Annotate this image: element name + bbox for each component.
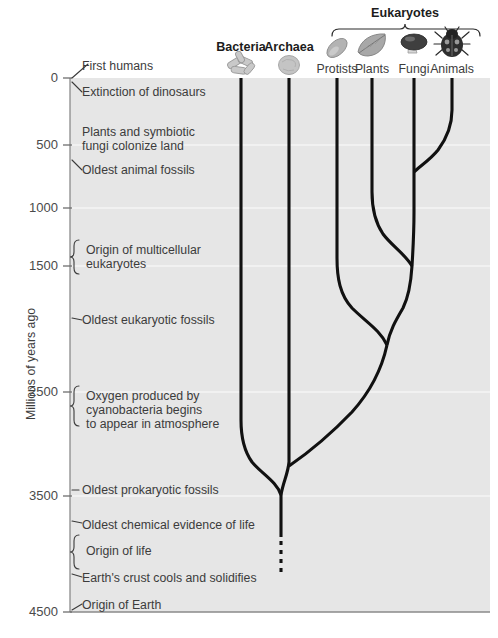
- event-earths-crust-cools: Earth's crust cools and solidifies: [82, 571, 257, 586]
- plant-leaf-icon: [358, 34, 385, 56]
- event-first-humans: First humans: [82, 59, 153, 74]
- axis-tick-3500: 3500: [18, 488, 58, 503]
- y-axis-title: Millions of years ago: [24, 308, 39, 420]
- event-oldest-chemical-evidence: Oldest chemical evidence of life: [82, 518, 255, 533]
- protist-bean-icon: [323, 35, 350, 61]
- taxon-label-animals: Animals: [423, 62, 481, 77]
- event-plants-fungi-land-line1: Plants and symbiotic: [82, 125, 195, 140]
- event-oldest-animal-fossils: Oldest animal fossils: [82, 163, 195, 178]
- tree-of-life-diagram: [0, 0, 498, 638]
- animal-beetle-icon: [434, 27, 470, 57]
- event-extinction-dinosaurs: Extinction of dinosaurs: [82, 85, 206, 100]
- eukaryotes-group-label: Eukaryotes: [355, 6, 455, 21]
- event-oxygen-cyanobacteria-line2: cyanobacteria begins: [86, 403, 202, 418]
- event-oxygen-cyanobacteria-line3: to appear in atmosphere: [86, 417, 219, 432]
- axis-tick-500: 500: [18, 137, 58, 152]
- event-oldest-prokaryotic-fossils: Oldest prokaryotic fossils: [82, 483, 219, 498]
- event-oldest-eukaryotic-fossils: Oldest eukaryotic fossils: [82, 313, 215, 328]
- archaea-blob-icon: [279, 56, 300, 75]
- event-oxygen-cyanobacteria-line1: Oxygen produced by: [86, 389, 199, 404]
- event-origin-of-earth: Origin of Earth: [82, 598, 161, 613]
- axis-tick-1500: 1500: [18, 258, 58, 273]
- event-origin-multicellular-line1: Origin of multicellular: [86, 243, 201, 258]
- fungi-mushroom-icon: [401, 34, 427, 53]
- axis-tick-4500: 4500: [18, 604, 58, 619]
- axis-tick-2500: 2500: [18, 384, 58, 399]
- phylogenetic-tree-figure: Millions of years ago 0 500 1000 1500 25…: [0, 0, 498, 638]
- axis-tick-1000: 1000: [18, 200, 58, 215]
- axis-tick-0: 0: [18, 70, 58, 85]
- event-plants-fungi-land-line2: fungi colonize land: [82, 139, 184, 154]
- event-origin-of-life: Origin of life: [86, 544, 152, 559]
- event-origin-multicellular-line2: eukaryotes: [86, 257, 146, 272]
- taxon-label-archaea: Archaea: [259, 40, 319, 55]
